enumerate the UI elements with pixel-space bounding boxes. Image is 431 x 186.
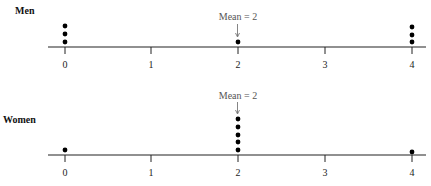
- women-mean-arrow-icon: [236, 102, 240, 114]
- women-dot-plot: 0 1 2 3 4 Mean = 2: [48, 90, 426, 178]
- men-dot-plot: 0 1 2 3 4 Mean = 2: [48, 11, 426, 70]
- women-tick-label: 4: [410, 167, 415, 178]
- men-tick-label: 4: [410, 59, 415, 70]
- women-tick-label: 1: [149, 167, 154, 178]
- dot-plots: 0 1 2 3 4 Mean = 2 0 1: [0, 0, 431, 186]
- men-tick-label: 0: [63, 59, 68, 70]
- men-tick-label: 1: [149, 59, 154, 70]
- women-tick-label: 3: [323, 167, 328, 178]
- women-tick-label: 0: [63, 167, 68, 178]
- women-dots: [63, 117, 415, 155]
- men-mean-label: Mean = 2: [219, 11, 257, 22]
- men-dots: [63, 24, 415, 45]
- women-ticks: [65, 155, 412, 162]
- men-tick-label: 2: [236, 59, 241, 70]
- men-ticks: [65, 47, 412, 54]
- women-mean-label: Mean = 2: [219, 90, 257, 101]
- men-mean-arrow-icon: [236, 24, 240, 37]
- women-tick-label: 2: [236, 167, 241, 178]
- men-tick-label: 3: [323, 59, 328, 70]
